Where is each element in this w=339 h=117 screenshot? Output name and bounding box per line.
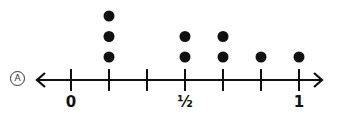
data-dot bbox=[256, 52, 267, 63]
number-line-axis bbox=[36, 73, 322, 87]
data-dots bbox=[104, 11, 305, 63]
data-dot bbox=[104, 11, 115, 22]
data-dot bbox=[180, 31, 191, 42]
tick-label: 0 bbox=[66, 95, 76, 110]
tick-label: ½ bbox=[177, 95, 193, 110]
data-dot bbox=[104, 31, 115, 42]
data-dot bbox=[104, 52, 115, 63]
data-dot bbox=[294, 52, 305, 63]
data-dot bbox=[180, 52, 191, 63]
dot-plot bbox=[0, 0, 339, 117]
tick-label: 1 bbox=[294, 95, 304, 110]
data-dot bbox=[218, 52, 229, 63]
data-dot bbox=[218, 31, 229, 42]
